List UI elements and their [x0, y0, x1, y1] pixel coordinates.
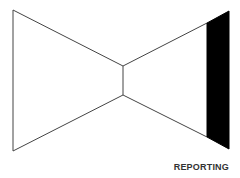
bowtie-diagram	[0, 0, 240, 178]
right-funnel-top-edge	[123, 23, 207, 66]
right-funnel-bottom-edge	[123, 95, 207, 137]
reporting-band	[207, 11, 229, 149]
reporting-label: REPORTING	[174, 162, 229, 172]
left-funnel-outline	[13, 10, 123, 151]
